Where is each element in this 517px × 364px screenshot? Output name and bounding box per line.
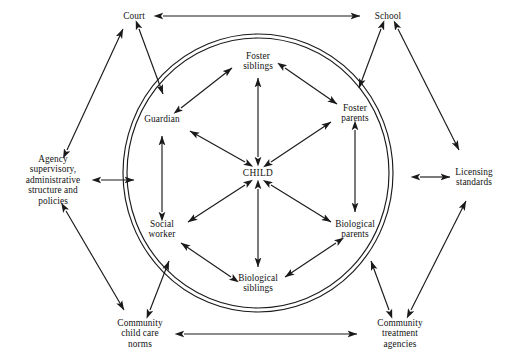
node-guardian[interactable]: Guardian <box>144 114 179 124</box>
node-social-worker[interactable]: Social worker <box>149 219 176 240</box>
edge-agency-court <box>67 29 123 150</box>
edge-child-biological-parents <box>271 185 331 222</box>
edge-child-guardian <box>190 131 245 162</box>
edge-school-foster-parents <box>359 29 381 88</box>
edge-foster-siblings-foster-parents <box>285 68 337 104</box>
ecomap-diagram: CHILD Foster siblings Foster parents Bio… <box>0 0 517 364</box>
edge-school-licensing <box>398 29 459 150</box>
node-foster-parents[interactable]: Foster parents <box>341 103 369 124</box>
edge-agency-community-norms <box>66 211 124 310</box>
node-community-treatment-agencies[interactable]: Community treatment agencies <box>377 318 422 349</box>
node-school[interactable]: School <box>375 11 401 21</box>
node-court[interactable]: Court <box>123 11 145 21</box>
node-agency-supervisory[interactable]: Agency supervisory, administrative struc… <box>26 154 81 206</box>
node-child[interactable]: CHILD <box>243 168 273 179</box>
node-community-child-care-norms[interactable]: Community child care norms <box>117 318 162 349</box>
edge-biological-siblings-social-worker <box>181 243 231 277</box>
edge-guardian-foster-siblings <box>181 68 232 108</box>
edge-biological-parents-biological-siblings <box>285 243 336 277</box>
node-biological-siblings[interactable]: Biological siblings <box>238 273 278 294</box>
edge-treatment-agencies-licensing <box>411 201 466 310</box>
node-licensing-standards[interactable]: Licensing standards <box>455 167 493 188</box>
edge-child-foster-parents <box>271 122 331 162</box>
node-foster-siblings[interactable]: Foster siblings <box>243 51 273 72</box>
node-biological-parents[interactable]: Biological parents <box>335 219 375 240</box>
edge-child-social-worker <box>188 185 245 222</box>
edge-court-guardian <box>139 29 163 94</box>
edge-treatment-agencies-biological-parents <box>371 261 389 310</box>
